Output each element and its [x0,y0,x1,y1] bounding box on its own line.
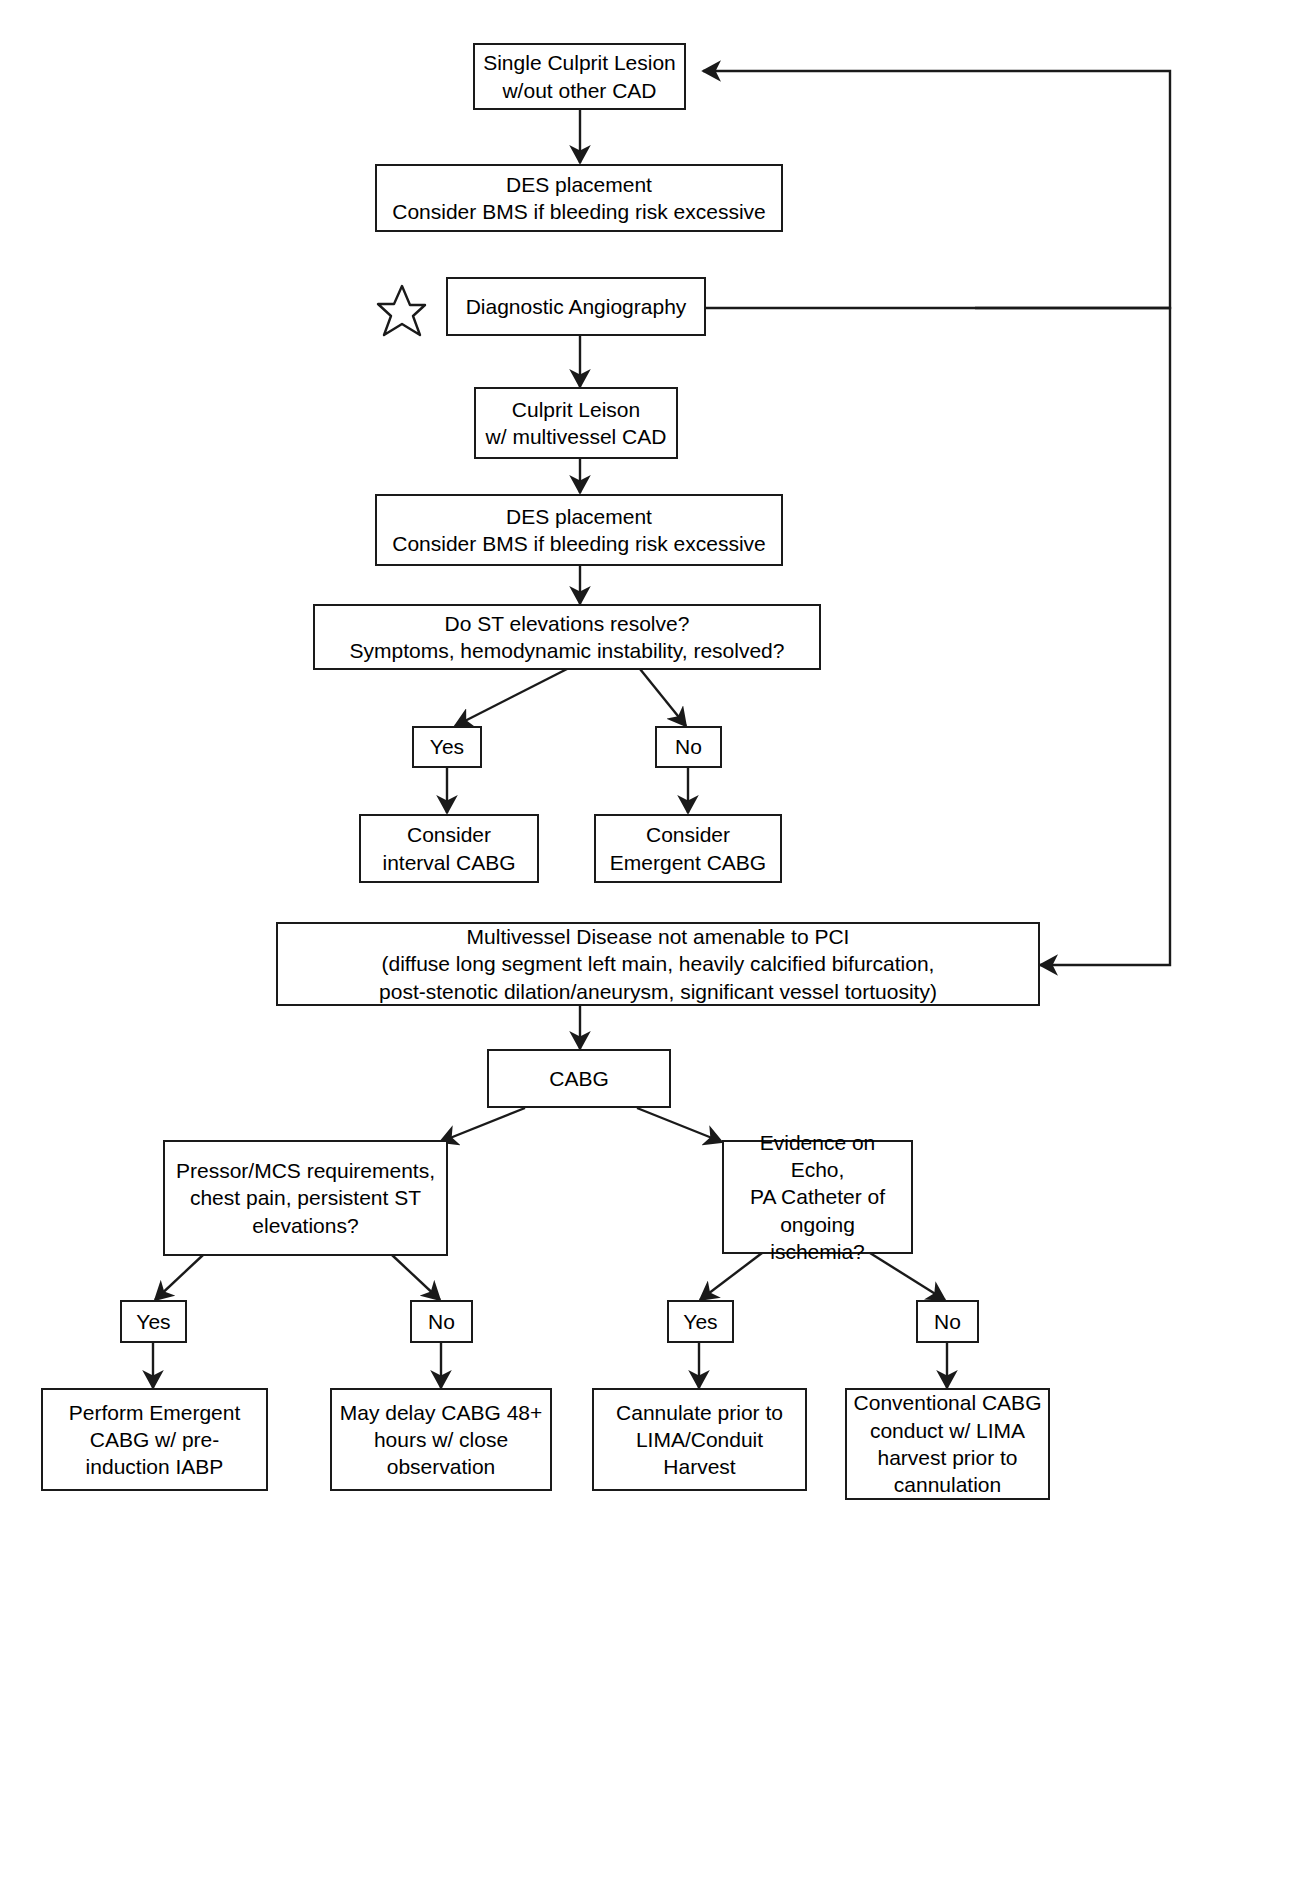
node-des-placement-2[interactable]: DES placement Consider BMS if bleeding r… [375,494,783,566]
flowchart-canvas: Single Culprit Lesion w/out other CAD DE… [0,0,1315,1878]
edge-cabg-to-echo-evidence [637,1108,722,1142]
node-consider-emergent-cabg[interactable]: Consider Emergent CABG [594,814,782,883]
node-consider-interval-cabg[interactable]: Consider interval CABG [359,814,539,883]
node-single-culprit-lesion[interactable]: Single Culprit Lesion w/out other CAD [473,43,686,110]
node-may-delay-cabg[interactable]: May delay CABG 48+ hours w/ close observ… [330,1388,552,1491]
edge-st-resolve-to-yes [455,669,567,726]
node-pressor-mcs-requirements[interactable]: Pressor/MCS requirements, chest pain, pe… [163,1140,448,1256]
node-evidence-echo-pa-catheter[interactable]: Evidence on Echo, PA Catheter of ongoing… [722,1140,913,1254]
edge-pressor-to-yes [155,1255,203,1300]
edge-st-resolve-to-no [640,669,686,726]
node-cannulate-prior-lima-conduit-harvest[interactable]: Cannulate prior to LIMA/Conduit Harvest [592,1388,807,1491]
star-icon [375,283,427,337]
node-st-yes[interactable]: Yes [412,726,482,768]
edge-pressor-to-no [392,1255,440,1300]
node-cabg[interactable]: CABG [487,1049,671,1108]
node-right-yes[interactable]: Yes [667,1300,734,1343]
edge-cabg-to-pressor-mcs [440,1108,525,1142]
edge-angio-to-multivessel-not-pci [975,308,1170,965]
node-st-elevations-resolve[interactable]: Do ST elevations resolve? Symptoms, hemo… [313,604,821,670]
node-culprit-lesion-multivessel-cad[interactable]: Culprit Leison w/ multivessel CAD [474,387,678,459]
node-perform-emergent-cabg-iabp[interactable]: Perform Emergent CABG w/ pre- induction … [41,1388,268,1491]
node-st-no[interactable]: No [655,726,722,768]
node-left-no[interactable]: No [410,1300,473,1343]
node-right-no[interactable]: No [916,1300,979,1343]
node-left-yes[interactable]: Yes [120,1300,187,1343]
node-des-placement-1[interactable]: DES placement Consider BMS if bleeding r… [375,164,783,232]
node-conventional-cabg-lima-harvest[interactable]: Conventional CABG conduct w/ LIMA harves… [845,1388,1050,1500]
node-multivessel-disease-not-amenable-pci[interactable]: Multivessel Disease not amenable to PCI … [276,922,1040,1006]
node-diagnostic-angiography[interactable]: Diagnostic Angiography [446,277,706,336]
